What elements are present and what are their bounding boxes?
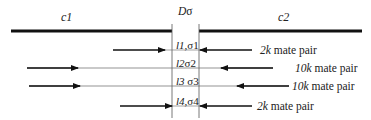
row-estimate-label-1: l1,σ1 [176, 39, 199, 51]
mate-pair-rows [27, 50, 289, 106]
sigma-symbol: σ3 [187, 75, 198, 87]
mate-pair-label-3: 10k mate pair [292, 80, 355, 92]
sigma-symbol: σ1 [187, 39, 198, 51]
mate-pair-text: mate pair [271, 44, 317, 56]
row-estimate-label-2: l2σ2 [176, 57, 196, 69]
gap-distance-label: Dσ [178, 5, 193, 17]
length-symbol: l3 [176, 75, 187, 87]
sigma-symbol: σ4 [187, 95, 198, 107]
insert-size: 10k [295, 62, 312, 74]
mate-pair-label-2: 10k mate pair [295, 62, 358, 74]
length-symbol: l1, [176, 39, 187, 51]
mate-pair-text: mate pair [312, 62, 358, 74]
contig-c1-label: c1 [61, 11, 72, 23]
length-symbol: l2 [176, 57, 185, 69]
insert-size: 10k [292, 80, 309, 92]
row-estimate-label-3: l3 σ3 [176, 75, 199, 87]
insert-size: 2k [257, 100, 268, 112]
gap-sigma-symbol: σ [186, 5, 192, 17]
insert-size: 2k [260, 44, 271, 56]
mate-pair-text: mate pair [309, 80, 355, 92]
contig-c2-label: c2 [278, 11, 289, 23]
sigma-symbol: σ2 [185, 57, 196, 69]
mate-pair-label-1: 2k mate pair [260, 44, 317, 56]
mate-pair-label-4: 2k mate pair [257, 100, 314, 112]
length-symbol: l4, [176, 95, 187, 107]
row-estimate-label-4: l4,σ4 [176, 95, 199, 107]
mate-pair-text: mate pair [268, 100, 314, 112]
